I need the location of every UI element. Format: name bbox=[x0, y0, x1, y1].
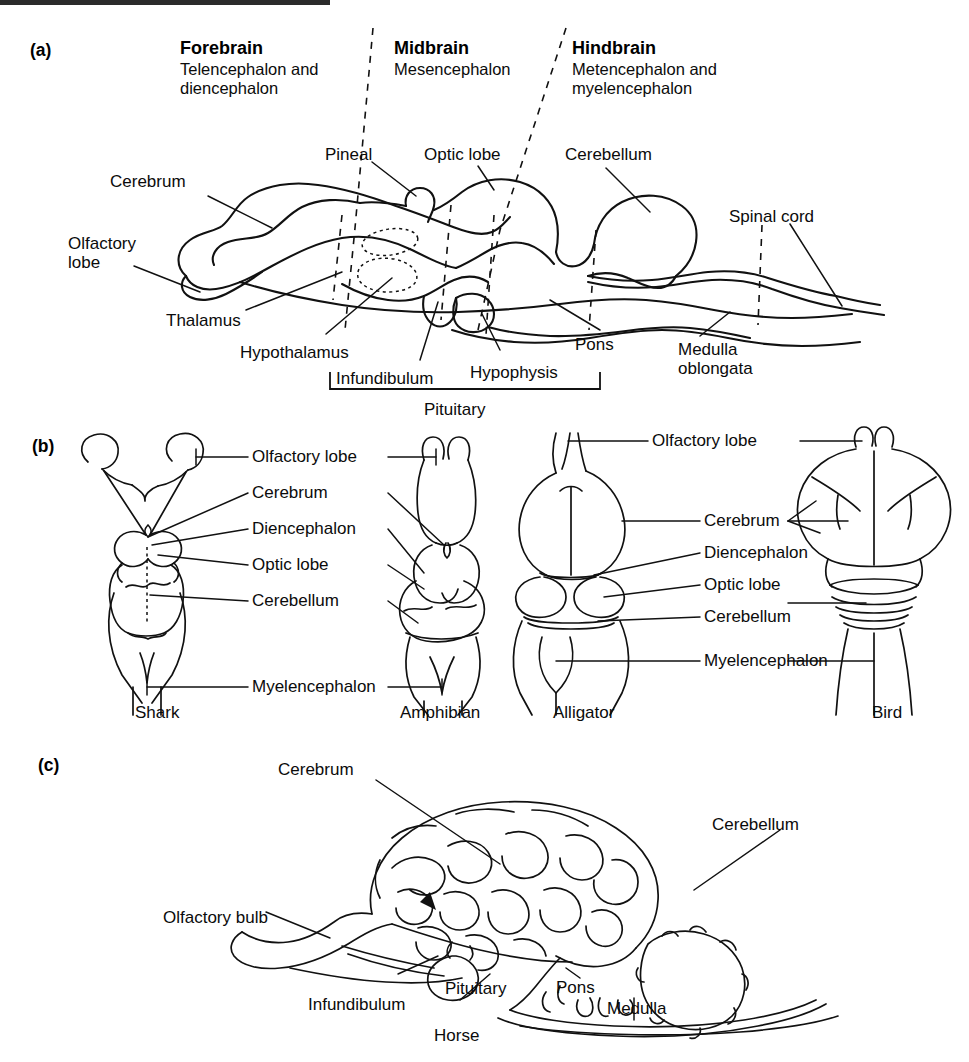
label-horse-infundibulum: Infundibulum bbox=[308, 995, 405, 1014]
species-caption-bird: Bird bbox=[872, 703, 902, 723]
label-horse-cerebrum: Cerebrum bbox=[278, 760, 354, 779]
label-b-right-myelencephalon: Myelencephalon bbox=[704, 651, 828, 670]
shark-brain bbox=[82, 433, 203, 715]
leader-spinal-cord bbox=[790, 224, 842, 306]
leader-pineal bbox=[372, 162, 416, 196]
label-olfactory-lobe-a: Olfactory lobe bbox=[68, 234, 136, 272]
leader-horse-infundibulum bbox=[398, 956, 438, 974]
label-horse-medulla: Medulla bbox=[607, 999, 667, 1018]
label-medulla-oblongata-a: Medulla oblongata bbox=[678, 340, 753, 378]
leader-shark-cerebellum bbox=[150, 595, 248, 601]
leader-amphibian-diencephalon bbox=[388, 529, 424, 573]
leader-horse-pons bbox=[566, 968, 580, 978]
label-hypophysis-a: Hypophysis bbox=[470, 363, 558, 382]
leader-amphibian-cerebrum bbox=[388, 493, 444, 545]
cerebrum-outline bbox=[179, 184, 510, 277]
label-b-right-cerebellum: Cerebellum bbox=[704, 607, 791, 626]
label-infundibulum-a: Infundibulum bbox=[336, 369, 433, 388]
label-hypothalamus-a: Hypothalamus bbox=[240, 343, 349, 362]
label-horse-olfactory-bulb: Olfactory bulb bbox=[163, 908, 268, 927]
leader-horse-cerebellum bbox=[694, 830, 780, 890]
label-horse-cerebellum: Cerebellum bbox=[712, 815, 799, 834]
internal-boundary-4 bbox=[589, 230, 596, 330]
label-b-left-cerebrum: Cerebrum bbox=[252, 483, 328, 502]
label-b-left-diencephalon: Diencephalon bbox=[252, 519, 356, 538]
roof-pre-pineal bbox=[360, 202, 406, 206]
species-caption-shark: Shark bbox=[135, 703, 179, 723]
label-cerebrum-a: Cerebrum bbox=[110, 172, 186, 191]
label-cerebellum-a: Cerebellum bbox=[565, 145, 652, 164]
leader-alligator-optic bbox=[604, 585, 700, 597]
pineal-outline bbox=[406, 188, 435, 222]
label-optic-lobe-a: Optic lobe bbox=[424, 145, 501, 164]
species-caption-horse: Horse bbox=[434, 1026, 479, 1046]
label-b-left-cerebellum: Cerebellum bbox=[252, 591, 339, 610]
optic-cerebellum-valley bbox=[556, 244, 594, 266]
leader-hypothalamus bbox=[326, 278, 392, 334]
brain-anatomy-figure: (a) Forebrain Telencephalon and dienceph… bbox=[0, 0, 969, 1062]
label-horse-pituitary: Pituitary bbox=[445, 979, 506, 998]
leader-amphibian-optic bbox=[388, 565, 424, 589]
leader-horse-cerebrum bbox=[376, 780, 500, 864]
amphibian-brain bbox=[400, 437, 485, 715]
leader-cerebrum bbox=[208, 196, 272, 228]
label-pineal-a: Pineal bbox=[325, 145, 372, 164]
leader-pons bbox=[550, 300, 600, 330]
label-b-right-diencephalon: Diencephalon bbox=[704, 543, 808, 562]
leader-olfactory-lobe bbox=[134, 266, 200, 292]
leader-amphibian-cerebellum bbox=[388, 601, 418, 623]
leader-bird-cerebrum-arrow2 bbox=[788, 521, 820, 533]
label-horse-pons: Pons bbox=[556, 978, 595, 997]
leader-infundibulum bbox=[420, 302, 438, 360]
panel-c-artwork bbox=[0, 742, 969, 1062]
leader-cerebellum bbox=[606, 168, 650, 212]
label-thalamus-a: Thalamus bbox=[166, 311, 241, 330]
hypothalamus-nucleus-oval bbox=[358, 258, 417, 292]
leader-thalamus bbox=[246, 272, 342, 310]
label-b-right-optic-lobe: Optic lobe bbox=[704, 575, 781, 594]
label-pons-a: Pons bbox=[575, 335, 614, 354]
leader-shark-optic bbox=[158, 555, 248, 565]
label-b-right-olfactory-lobe: Olfactory lobe bbox=[652, 431, 757, 450]
label-b-left-myelencephalon: Myelencephalon bbox=[252, 677, 376, 696]
alligator-brain bbox=[513, 433, 628, 715]
hypothalamus-outline bbox=[342, 277, 488, 301]
brainstem-dorsal-line bbox=[588, 271, 836, 296]
spinal-cord-upper bbox=[836, 296, 880, 305]
divider-forebrain-midbrain bbox=[345, 28, 373, 330]
bird-brain bbox=[798, 427, 951, 715]
leader-horse-olfactory-bulb bbox=[266, 912, 330, 938]
panel-b-artwork bbox=[0, 425, 969, 715]
label-b-right-cerebrum: Cerebrum bbox=[704, 511, 780, 530]
optic-lobe-outline bbox=[434, 179, 558, 252]
internal-boundary-1 bbox=[333, 215, 342, 300]
thalamic-floor bbox=[456, 242, 554, 268]
medulla-line bbox=[488, 327, 750, 338]
leader-shark-cerebrum bbox=[148, 493, 248, 537]
species-caption-amphibian: Amphibian bbox=[400, 703, 480, 723]
label-b-left-optic-lobe: Optic lobe bbox=[252, 555, 329, 574]
species-caption-alligator: Alligator bbox=[553, 703, 614, 723]
leader-bird-cerebrum-arrow bbox=[788, 501, 816, 521]
brainstem-dorsal-line-2 bbox=[588, 280, 840, 308]
label-pituitary-a: Pituitary bbox=[424, 400, 485, 419]
label-spinal-cord-a: Spinal cord bbox=[729, 207, 814, 226]
label-b-left-olfactory-lobe: Olfactory lobe bbox=[252, 447, 357, 466]
leader-alligator-diencephalon bbox=[594, 553, 700, 575]
leader-optic-lobe bbox=[478, 166, 494, 190]
leader-hypophysis bbox=[482, 314, 500, 350]
